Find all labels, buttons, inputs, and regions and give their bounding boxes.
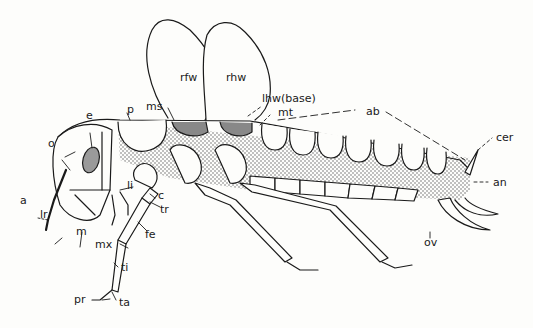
label-left-hindwing-base: lhw(base) [262,93,316,104]
label-pronotum: p [127,104,134,115]
insect-drawing [0,0,533,328]
label-abdomen: ab [366,106,380,117]
label-labium: li [127,180,133,191]
label-pretarsus: pr [74,294,86,305]
label-eye: e [86,110,93,121]
label-maxilla: mx [95,239,112,250]
label-tarsus: ta [119,297,130,308]
label-anus: an [493,177,507,188]
label-tibia: ti [121,262,128,273]
label-metathorax: mt [278,107,293,118]
label-antenna: a [20,195,27,206]
head [53,124,112,220]
label-cercus: cer [496,132,513,143]
label-mandible: m [76,226,87,237]
label-trochanter: tr [160,204,169,215]
label-femur: fe [145,229,156,240]
ovipositor [438,198,490,230]
insect-anatomy-diagram: rfw rhw lhw(base) ms mt p e o ab cer an … [0,0,533,328]
label-ocelli: o [48,138,55,149]
label-right-hindwing: rhw [226,72,246,83]
label-labrum: lr [40,209,48,220]
label-coxa: c [158,190,164,201]
label-mesothorax: ms [146,101,162,112]
label-ovipositor: ov [424,237,437,248]
label-right-forewing: rfw [180,72,197,83]
